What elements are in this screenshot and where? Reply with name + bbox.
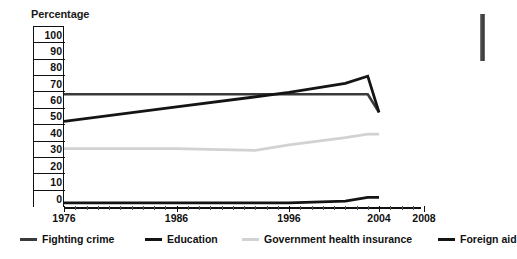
x-axis-minor-tick (98, 206, 99, 210)
plot-area (64, 25, 424, 207)
series-line-education (64, 76, 379, 121)
x-axis-minor-tick (312, 206, 313, 210)
y-axis-tick-label: 90 (50, 46, 62, 57)
y-axis-tick-row: 50 (34, 109, 65, 125)
x-axis-minor-tick (188, 206, 189, 210)
y-axis: 1009080706050403020100 (33, 27, 64, 207)
x-axis-minor-tick (334, 206, 335, 210)
page-edge-bar (480, 14, 485, 61)
x-axis-labels: 19761986199620042008 (0, 212, 494, 228)
x-axis-minor-tick (210, 206, 211, 210)
legend-label: Fighting crime (42, 234, 114, 245)
y-axis-tick-label: 50 (50, 111, 62, 122)
x-axis-minor-tick (368, 206, 369, 210)
x-axis-minor-tick (87, 206, 88, 210)
x-axis-minor-tick (222, 206, 223, 210)
y-axis-tick-label: 30 (50, 144, 62, 155)
legend-label: Education (167, 234, 218, 245)
y-axis-tick-label: 40 (50, 128, 62, 139)
legend-swatch-icon (438, 238, 455, 242)
series-line-fighting-crime (64, 94, 379, 112)
y-axis-tick-row: 20 (34, 158, 65, 174)
x-axis-minor-tick (300, 206, 301, 210)
y-axis-tick-row: 100 (34, 27, 65, 43)
y-axis-tick-label: 80 (50, 62, 62, 73)
legend-label: Foreign aid (460, 234, 517, 245)
y-axis-tick-row: 10 (34, 174, 65, 190)
x-axis-minor-tick (255, 206, 256, 210)
x-axis-minor-tick (120, 206, 121, 210)
x-axis-minor-tick (165, 206, 166, 210)
x-axis-minor-tick (413, 206, 414, 210)
y-axis-title: Percentage (31, 8, 89, 20)
legend-swatch-icon (242, 238, 259, 242)
legend-item[interactable]: Foreign aid (438, 234, 517, 245)
x-axis-minor-tick (109, 206, 110, 210)
y-axis-tick-row: 70 (34, 76, 65, 92)
series-line-government-health-insurance (64, 134, 379, 150)
x-axis-minor-tick (267, 206, 268, 210)
x-axis-minor-tick (278, 206, 279, 210)
x-axis-minor-tick (143, 206, 144, 210)
y-axis-tick-row: 30 (34, 142, 65, 158)
x-axis-tick-label: 1996 (277, 212, 300, 224)
x-axis-minor-tick (244, 206, 245, 210)
x-axis-minor-tick (75, 206, 76, 210)
y-axis-tick-label: 70 (50, 79, 62, 90)
x-axis-tick-label: 1986 (165, 212, 188, 224)
x-axis-tick-label: 2004 (367, 212, 390, 224)
legend-item[interactable]: Government health insurance (242, 234, 412, 245)
legend-swatch-icon (20, 238, 37, 242)
y-axis-tick-label: 100 (44, 29, 62, 40)
series-line-foreign-aid (64, 197, 379, 202)
x-axis-minor-tick (345, 206, 346, 210)
x-axis-minor-tick (402, 206, 403, 210)
y-axis-tick-row: 40 (34, 125, 65, 141)
y-axis-tick-label: 10 (50, 177, 62, 188)
y-axis-tick-label: 20 (50, 160, 62, 171)
x-axis-minor-tick (323, 206, 324, 210)
x-axis-minor-tick (199, 206, 200, 210)
y-axis-tick-label: 0 (56, 194, 62, 205)
legend-swatch-icon (145, 238, 162, 242)
x-axis-tick-label: 1976 (52, 212, 75, 224)
x-axis-minor-tick (132, 206, 133, 210)
x-axis-minor-tick (357, 206, 358, 210)
y-axis-tick-row: 60 (34, 92, 65, 108)
chart-legend: Fighting crimeEducationGovernment health… (20, 234, 480, 250)
y-axis-tick-row: 0 (34, 191, 65, 207)
legend-item[interactable]: Fighting crime (20, 234, 114, 245)
y-axis-tick-row: 90 (34, 43, 65, 59)
x-axis-minor-tick (154, 206, 155, 210)
x-axis-minor-tick (233, 206, 234, 210)
series-canvas (64, 25, 424, 207)
legend-label: Government health insurance (264, 234, 412, 245)
y-axis-tick-row: 80 (34, 60, 65, 76)
legend-item[interactable]: Education (145, 234, 218, 245)
x-axis-minor-tick (390, 206, 391, 210)
x-axis-tick-label: 2008 (412, 212, 435, 224)
y-axis-tick-label: 60 (50, 95, 62, 106)
